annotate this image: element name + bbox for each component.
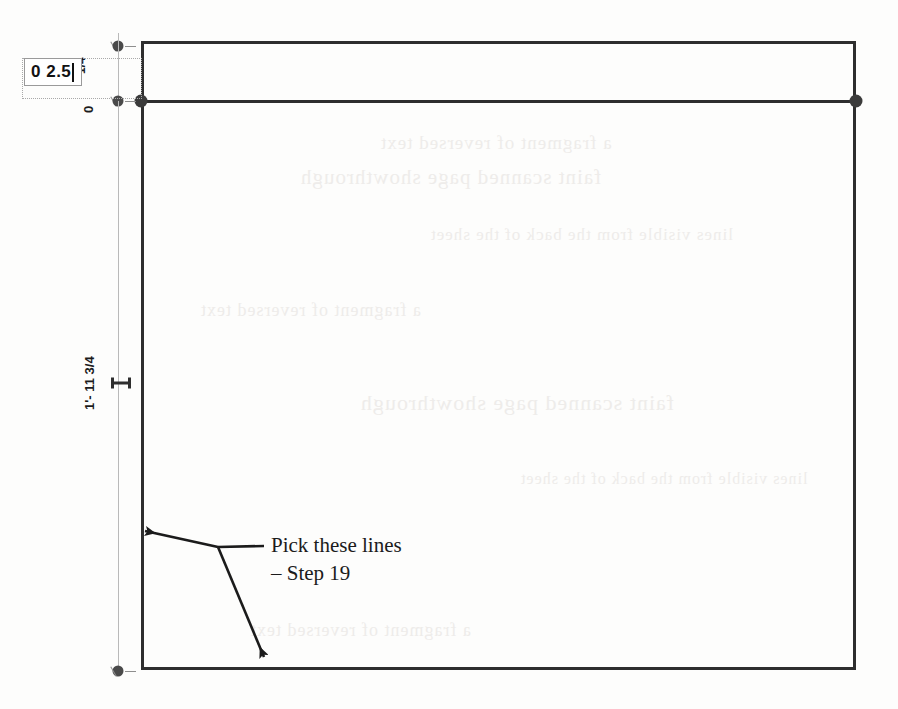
grip-dot-right[interactable] (850, 95, 863, 108)
dimension-tick-top-extension (125, 46, 136, 47)
dimension-tick-bottom-extension (125, 671, 136, 672)
dimension-label-overall[interactable]: 1'- 11 3/4 (82, 356, 97, 410)
dimension-label-zero[interactable]: 0 (81, 106, 96, 113)
dimension-tick-zero-extension (125, 101, 136, 102)
wall-outline-rectangle[interactable] (141, 41, 856, 670)
dimension-value-input[interactable]: 0 2.5 (24, 58, 82, 86)
dimension-drag-handle[interactable] (111, 378, 131, 389)
text-caret (72, 63, 74, 82)
figure-canvas: a fragment of reversed text faint scanne… (0, 0, 898, 709)
annotation-line-1: Pick these lines (271, 532, 402, 559)
annotation-line-2: – Step 19 (271, 560, 350, 587)
interior-horizontal-line[interactable] (141, 100, 856, 103)
dimension-value-text: 0 2.5 (31, 62, 71, 82)
